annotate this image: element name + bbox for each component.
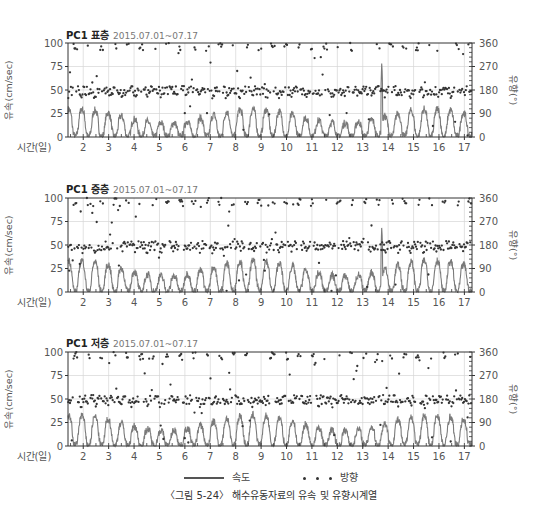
x-tick-label: 9 xyxy=(258,142,264,153)
chart-panel-0: 0255075100090180270360234567891011121314… xyxy=(3,38,519,154)
chart-area: 0255075100090180270360234567891011121314… xyxy=(0,0,542,470)
y2-tick-label: 0 xyxy=(479,287,485,298)
x-axis-label: 시간(일) xyxy=(17,451,52,462)
x-tick-label: 4 xyxy=(131,297,137,308)
y2-tick-label: 360 xyxy=(479,347,498,358)
x-tick-label: 2 xyxy=(80,451,86,462)
y-tick-label: 25 xyxy=(50,108,63,119)
y-tick-label: 75 xyxy=(50,216,63,227)
y-tick-label: 75 xyxy=(50,370,63,381)
x-tick-label: 13 xyxy=(356,297,369,308)
x-tick-label: 8 xyxy=(233,451,239,462)
y2-tick-label: 90 xyxy=(479,263,492,274)
y-tick-label: 100 xyxy=(44,193,63,204)
y2-axis-label: 유향(°) xyxy=(508,75,519,105)
x-tick-label: 11 xyxy=(306,451,319,462)
x-tick-label: 3 xyxy=(105,451,111,462)
dot-swatch-icon xyxy=(329,477,332,480)
y2-tick-label: 0 xyxy=(479,132,485,143)
y2-tick-label: 90 xyxy=(479,417,492,428)
y2-tick-label: 360 xyxy=(479,193,498,204)
x-tick-label: 16 xyxy=(433,142,446,153)
legend-label-direction: 방향 xyxy=(340,472,358,483)
x-tick-label: 10 xyxy=(280,451,293,462)
x-tick-label: 14 xyxy=(382,297,395,308)
x-tick-label: 6 xyxy=(182,297,188,308)
x-tick-label: 5 xyxy=(156,297,162,308)
y-tick-label: 50 xyxy=(50,240,63,251)
x-tick-label: 4 xyxy=(131,451,137,462)
x-tick-label: 16 xyxy=(433,451,446,462)
y2-tick-label: 90 xyxy=(479,108,492,119)
x-tick-label: 12 xyxy=(331,451,344,462)
x-tick-label: 6 xyxy=(182,142,188,153)
x-tick-label: 2 xyxy=(80,297,86,308)
figure-caption: 〈그림 5-24〉 해수유동자료의 유속 및 유향시계열 xyxy=(0,487,542,502)
x-tick-label: 4 xyxy=(131,142,137,153)
y-axis-label: 유속(cm/sec) xyxy=(3,369,14,428)
x-tick-label: 17 xyxy=(458,142,471,153)
x-tick-label: 16 xyxy=(433,297,446,308)
x-tick-label: 3 xyxy=(105,297,111,308)
x-tick-label: 3 xyxy=(105,142,111,153)
y2-tick-label: 180 xyxy=(479,394,498,405)
y2-tick-label: 0 xyxy=(479,441,485,452)
x-tick-label: 17 xyxy=(458,451,471,462)
y-tick-label: 50 xyxy=(50,394,63,405)
x-tick-label: 8 xyxy=(233,142,239,153)
x-tick-label: 15 xyxy=(407,297,420,308)
y2-tick-label: 360 xyxy=(479,38,498,49)
x-tick-label: 12 xyxy=(331,297,344,308)
x-tick-label: 5 xyxy=(156,142,162,153)
speed-line xyxy=(68,228,472,292)
y2-tick-label: 180 xyxy=(479,240,498,251)
y-tick-label: 0 xyxy=(57,287,63,298)
legend: 속도 방향 xyxy=(0,469,542,484)
x-tick-label: 17 xyxy=(458,297,471,308)
x-tick-label: 14 xyxy=(382,451,395,462)
x-tick-label: 10 xyxy=(280,142,293,153)
speed-line xyxy=(68,412,472,447)
y-axis-label: 유속(cm/sec) xyxy=(3,215,14,274)
speed-line xyxy=(68,64,472,138)
x-tick-label: 14 xyxy=(382,142,395,153)
x-tick-label: 10 xyxy=(280,297,293,308)
x-tick-label: 13 xyxy=(356,142,369,153)
y-tick-label: 25 xyxy=(50,417,63,428)
y2-tick-label: 270 xyxy=(479,216,498,227)
x-tick-label: 2 xyxy=(80,142,86,153)
y-tick-label: 0 xyxy=(57,441,63,452)
x-tick-label: 9 xyxy=(258,297,264,308)
y-tick-label: 100 xyxy=(44,347,63,358)
y-tick-label: 0 xyxy=(57,132,63,143)
x-tick-label: 7 xyxy=(207,451,213,462)
x-tick-label: 13 xyxy=(356,451,369,462)
x-tick-label: 8 xyxy=(233,297,239,308)
x-tick-label: 7 xyxy=(207,142,213,153)
y2-axis-label: 유향(°) xyxy=(508,384,519,414)
y-tick-label: 100 xyxy=(44,38,63,49)
x-tick-label: 7 xyxy=(207,297,213,308)
chart-panel-2: 0255075100090180270360234567891011121314… xyxy=(3,347,519,463)
x-axis-label: 시간(일) xyxy=(17,297,52,308)
legend-item-speed: 속도 xyxy=(184,469,250,484)
x-tick-label: 12 xyxy=(331,142,344,153)
legend-label-speed: 속도 xyxy=(232,472,250,483)
x-tick-label: 9 xyxy=(258,451,264,462)
line-swatch-icon xyxy=(184,477,224,479)
legend-item-direction: 방향 xyxy=(298,469,358,484)
x-tick-label: 6 xyxy=(182,451,188,462)
y2-axis-label: 유향(°) xyxy=(508,230,519,260)
dot-swatch-icon xyxy=(303,477,306,480)
x-tick-label: 11 xyxy=(306,142,319,153)
y-tick-label: 75 xyxy=(50,61,63,72)
y2-tick-label: 180 xyxy=(479,85,498,96)
y-tick-label: 25 xyxy=(50,263,63,274)
x-tick-label: 15 xyxy=(407,142,420,153)
chart-panel-1: 0255075100090180270360234567891011121314… xyxy=(3,193,519,309)
dot-swatch-icon xyxy=(316,477,319,480)
y2-tick-label: 270 xyxy=(479,61,498,72)
x-tick-label: 5 xyxy=(156,451,162,462)
x-tick-label: 15 xyxy=(407,451,420,462)
y2-tick-label: 270 xyxy=(479,370,498,381)
